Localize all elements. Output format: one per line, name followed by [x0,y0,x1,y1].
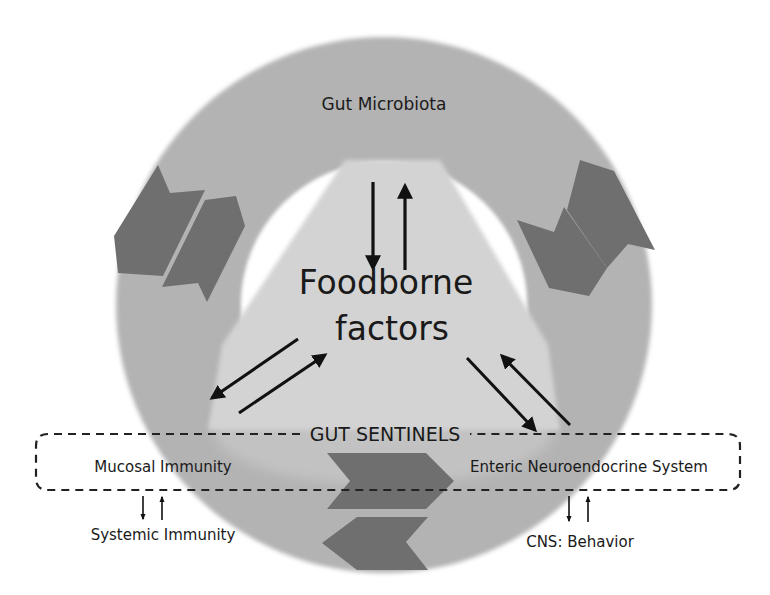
foodborne-factors-label-line2: factors [335,309,449,348]
systemic-immunity-label: Systemic Immunity [91,526,236,544]
gut-sentinels-diagram: Gut Microbiota Foodborne factors GUT SEN… [0,0,770,595]
cns-behavior-label: CNS: Behavior [526,533,634,551]
gut-sentinels-label: GUT SENTINELS [310,423,461,445]
mucosal-immunity-label: Mucosal Immunity [94,458,232,476]
enteric-neuroendocrine-label: Enteric Neuroendocrine System [470,458,708,476]
enteric-cns-arrows [569,496,588,522]
mucosal-systemic-arrows [143,496,162,520]
foodborne-factors-label: Foodborne [299,263,473,302]
gut-microbiota-label: Gut Microbiota [322,94,447,114]
